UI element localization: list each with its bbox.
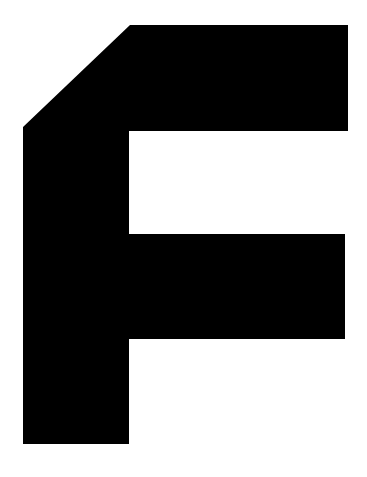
letter-f-glyph xyxy=(0,0,367,477)
letter-canvas: F xyxy=(0,0,367,477)
letter-f-shape xyxy=(23,25,348,444)
